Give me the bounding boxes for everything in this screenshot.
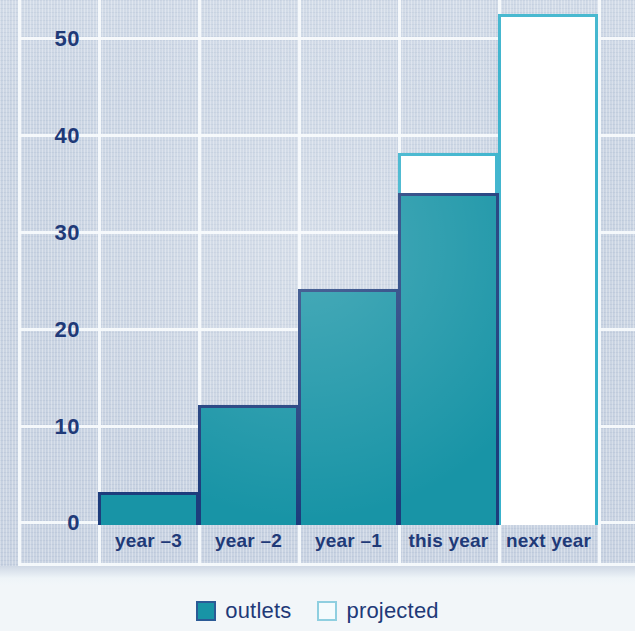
vgridline-5: [598, 0, 601, 566]
y-tick-label-10: 10: [20, 414, 80, 440]
bar-outlets-this-year: [398, 193, 499, 525]
y-tick-label-20: 20: [20, 317, 80, 343]
y-tick-label-0: 0: [20, 510, 80, 536]
chart-figure: 50 40 30 20 10 0 year –3 year –2 year –1…: [0, 0, 635, 631]
bar-outlets-year-minus-3: [98, 492, 199, 525]
legend-item-outlets: outlets: [196, 598, 291, 624]
plot-area: [0, 0, 635, 566]
outlets-swatch-icon: [196, 601, 216, 621]
x-tick-label-this-year: this year: [398, 530, 499, 552]
projected-swatch-icon: [317, 601, 337, 621]
bar-projected-next-year: [498, 14, 598, 525]
x-tick-label-year-minus-3: year –3: [98, 530, 199, 552]
x-tick-label-year-minus-2: year –2: [198, 530, 299, 552]
y-tick-label-30: 30: [20, 220, 80, 246]
y-tick-label-50: 50: [20, 26, 80, 52]
bar-outlets-year-minus-2: [198, 405, 299, 525]
vgridline-axis: [98, 0, 101, 566]
bottom-fade-band: [0, 566, 635, 588]
vgridline-left-edge: [18, 0, 21, 566]
x-tick-label-year-minus-1: year –1: [298, 530, 399, 552]
x-tick-label-next-year: next year: [498, 530, 599, 552]
y-tick-label-40: 40: [20, 123, 80, 149]
legend-item-projected: projected: [317, 598, 438, 624]
bar-outlets-year-minus-1: [298, 289, 399, 525]
chart-legend: outlets projected: [0, 596, 635, 626]
legend-label-projected: projected: [346, 598, 438, 624]
legend-label-outlets: outlets: [225, 598, 291, 624]
